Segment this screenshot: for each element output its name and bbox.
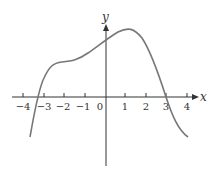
x-ticks	[23, 93, 187, 97]
x-tick-label: 0	[97, 101, 103, 112]
x-tick-label: −4	[16, 101, 31, 112]
y-axis-label: y	[101, 10, 109, 24]
x-axis-label: x	[200, 90, 207, 104]
x-tick-label: 4	[184, 101, 190, 112]
x-tick-label: 2	[143, 101, 149, 112]
function-graph: −4 −3 −2 −1 0 1 2 3 4 x y	[0, 0, 216, 177]
x-tick-label: 1	[122, 101, 128, 112]
function-curve	[30, 29, 188, 137]
x-tick-label: −3	[37, 101, 52, 112]
x-tick-label: −1	[76, 101, 91, 112]
x-tick-label: −2	[56, 101, 71, 112]
